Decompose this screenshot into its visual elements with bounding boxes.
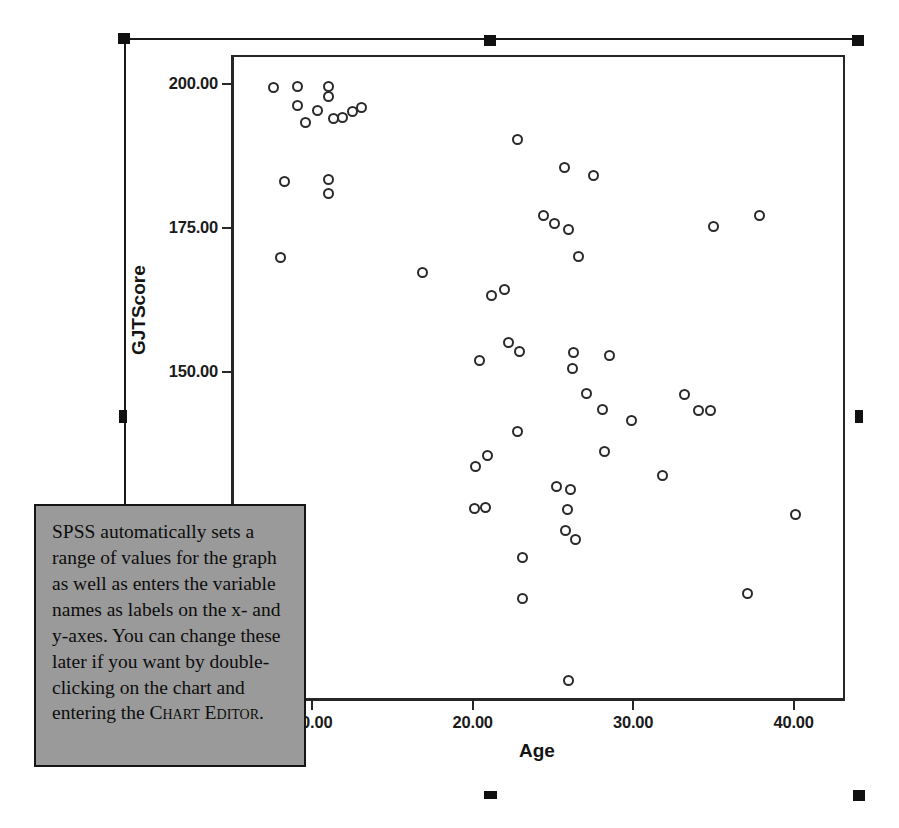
x-axis-tick [632,701,634,710]
y-axis-tick [222,227,231,229]
x-axis-tick [311,701,313,710]
x-axis-tick-label: 20.00 [453,713,493,732]
y-axis-tick-label-wrap: 200.00 [150,74,218,94]
x-axis-title: Age [519,740,555,762]
handle-top-left[interactable] [118,33,130,44]
y-axis-tick-label: 200.00 [169,74,218,93]
plot-area-frame[interactable] [232,55,845,700]
annotation-callout: SPSS automatically sets a range of value… [34,504,306,767]
y-axis-tick-label: 150.00 [169,362,218,381]
x-axis-line [232,699,845,701]
y-axis-tick-label: 175.00 [169,218,218,237]
callout-text-chart-editor: Chart Editor [149,702,259,723]
callout-text-lead: SPSS automatically sets a range of value… [52,521,281,723]
y-axis-title: GJTScore [128,265,150,355]
handle-middle-left[interactable] [119,410,127,423]
handle-bottom-right[interactable] [853,790,865,801]
handle-top-center[interactable] [484,35,496,46]
x-axis-tick-label: 40.00 [773,713,813,732]
handle-middle-right[interactable] [855,410,863,423]
spss-chart-screenshot: 125.00150.00175.00200.00 10.0020.0030.00… [0,0,899,828]
callout-text-tail: . [259,702,264,723]
x-axis-tick [793,701,795,710]
y-axis-tick-label-wrap: 150.00 [150,362,218,382]
y-axis-tick-label-wrap: 175.00 [150,218,218,238]
x-axis-tick-label: 30.00 [613,713,653,732]
y-axis-tick [222,83,231,85]
y-axis-tick [222,371,231,373]
handle-top-right[interactable] [852,35,864,46]
handle-bottom-center[interactable] [484,791,497,799]
x-axis-tick [472,701,474,710]
